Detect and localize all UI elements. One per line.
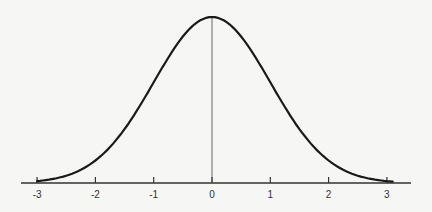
x-tick-label: -2: [91, 189, 100, 200]
x-tick-label: 1: [268, 189, 274, 200]
bell-curve-chart: -3-2-10123: [0, 0, 432, 212]
x-tick-label: 3: [384, 189, 390, 200]
x-tick-label: -3: [33, 189, 42, 200]
x-tick-label: 2: [326, 189, 332, 200]
normal-distribution-curve: [37, 17, 393, 182]
x-tick-label: 0: [209, 189, 215, 200]
x-tick-label: -1: [149, 189, 158, 200]
